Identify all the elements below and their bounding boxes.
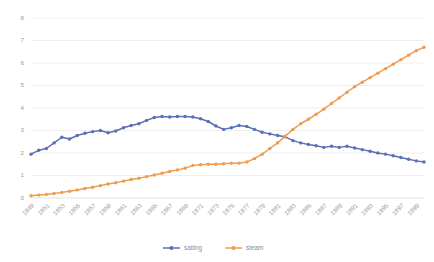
x-tick-label: 1859 bbox=[98, 201, 113, 216]
data-point bbox=[322, 107, 325, 110]
x-tick-label: 1897 bbox=[390, 201, 405, 216]
data-point bbox=[129, 124, 132, 127]
data-point bbox=[153, 116, 156, 119]
data-point bbox=[45, 193, 48, 196]
data-point bbox=[237, 161, 240, 164]
data-series-group bbox=[29, 46, 425, 198]
data-point bbox=[391, 154, 394, 157]
data-point bbox=[207, 163, 210, 166]
x-tick-label: 1875 bbox=[221, 201, 236, 216]
data-point bbox=[168, 170, 171, 173]
legend-item-steam[interactable]: steam bbox=[225, 244, 263, 251]
data-point bbox=[199, 117, 202, 120]
x-tick-label: 1893 bbox=[360, 201, 375, 216]
data-point bbox=[191, 164, 194, 167]
data-point bbox=[68, 190, 71, 193]
data-point bbox=[345, 145, 348, 148]
data-point bbox=[330, 102, 333, 105]
y-tick-label: 0 bbox=[21, 194, 25, 201]
data-point bbox=[214, 163, 217, 166]
data-point bbox=[68, 137, 71, 140]
x-tick-label: 1877 bbox=[236, 201, 251, 216]
x-tick-label: 1871 bbox=[190, 201, 205, 216]
data-point bbox=[207, 120, 210, 123]
data-point bbox=[260, 131, 263, 134]
y-tick-label: 4 bbox=[21, 104, 25, 111]
data-point bbox=[106, 182, 109, 185]
x-tick-label: 1861 bbox=[113, 201, 128, 216]
legend-swatch-marker bbox=[231, 246, 235, 250]
data-point bbox=[29, 194, 32, 197]
legend-label-sailing: sailing bbox=[184, 244, 203, 252]
x-tick-label: 1885 bbox=[298, 201, 313, 216]
data-point bbox=[91, 130, 94, 133]
data-point bbox=[52, 192, 55, 195]
x-tick-label: 1849 bbox=[21, 201, 36, 216]
data-point bbox=[284, 134, 287, 137]
data-point bbox=[353, 85, 356, 88]
x-tick-label: 1873 bbox=[205, 201, 220, 216]
data-point bbox=[114, 129, 117, 132]
data-point bbox=[384, 67, 387, 70]
series-line-steam bbox=[31, 47, 424, 196]
data-point bbox=[291, 139, 294, 142]
x-tick-label: 1889 bbox=[329, 201, 344, 216]
data-point bbox=[83, 187, 86, 190]
data-point bbox=[322, 146, 325, 149]
data-point bbox=[415, 159, 418, 162]
data-point bbox=[230, 126, 233, 129]
data-point bbox=[137, 122, 140, 125]
data-point bbox=[60, 136, 63, 139]
data-point bbox=[368, 150, 371, 153]
data-point bbox=[268, 132, 271, 135]
data-point bbox=[399, 58, 402, 61]
x-tick-label: 1865 bbox=[144, 201, 159, 216]
data-point bbox=[29, 152, 32, 155]
data-point bbox=[168, 115, 171, 118]
x-tick-label: 1867 bbox=[159, 201, 174, 216]
data-point bbox=[314, 144, 317, 147]
data-point bbox=[368, 76, 371, 79]
y-tick-label: 5 bbox=[21, 81, 25, 88]
data-point bbox=[191, 115, 194, 118]
data-point bbox=[176, 168, 179, 171]
data-point bbox=[307, 118, 310, 121]
data-point bbox=[76, 188, 79, 191]
data-point bbox=[253, 128, 256, 131]
x-axis-tick-labels: 1849185118531855185718591861186318651867… bbox=[21, 201, 421, 216]
x-tick-label: 1863 bbox=[128, 201, 143, 216]
x-tick-label: 1881 bbox=[267, 201, 282, 216]
y-tick-label: 1 bbox=[21, 171, 25, 178]
data-point bbox=[268, 147, 271, 150]
data-point bbox=[245, 125, 248, 128]
y-tick-label: 2 bbox=[21, 149, 25, 156]
data-point bbox=[222, 162, 225, 165]
series-steam bbox=[29, 46, 425, 198]
data-point bbox=[376, 71, 379, 74]
data-point bbox=[199, 163, 202, 166]
legend-swatch-marker bbox=[169, 246, 173, 250]
data-point bbox=[99, 184, 102, 187]
data-point bbox=[299, 122, 302, 125]
x-tick-label: 1879 bbox=[252, 201, 267, 216]
data-point bbox=[45, 147, 48, 150]
chart-canvas: 012345678 184918511853185518571859186118… bbox=[0, 0, 434, 262]
series-line-sailing bbox=[31, 117, 424, 162]
data-point bbox=[91, 186, 94, 189]
x-tick-label: 1851 bbox=[36, 201, 51, 216]
data-point bbox=[276, 134, 279, 137]
legend-item-sailing[interactable]: sailing bbox=[163, 244, 203, 252]
data-point bbox=[76, 134, 79, 137]
data-point bbox=[399, 156, 402, 159]
data-point bbox=[307, 143, 310, 146]
x-tick-label: 1899 bbox=[406, 201, 421, 216]
data-point bbox=[160, 172, 163, 175]
data-point bbox=[52, 141, 55, 144]
data-point bbox=[129, 178, 132, 181]
data-point bbox=[106, 131, 109, 134]
y-axis-tick-labels: 012345678 bbox=[21, 14, 25, 201]
line-chart: 012345678 184918511853185518571859186118… bbox=[0, 0, 434, 262]
x-tick-label: 1883 bbox=[283, 201, 298, 216]
data-point bbox=[37, 193, 40, 196]
data-point bbox=[422, 46, 425, 49]
